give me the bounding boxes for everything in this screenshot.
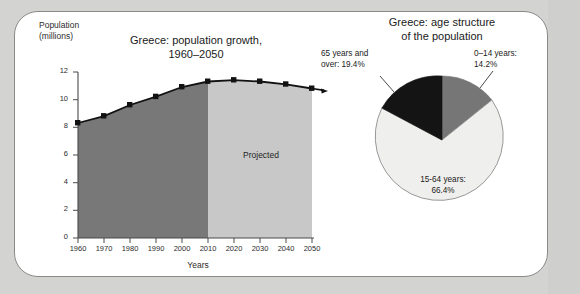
x-tick-label-1980: 1980 — [118, 245, 142, 254]
x-tick-label-2030: 2030 — [248, 245, 272, 254]
age-structure-chart: Greece: age structure of the population … — [330, 18, 555, 248]
x-ticks — [78, 238, 312, 243]
y-tick-label-4: 4 — [50, 178, 68, 187]
pie-chart-title-line2: of the population — [352, 30, 532, 43]
x-tick-label-1990: 1990 — [144, 245, 168, 254]
y-tick-label-10: 10 — [50, 95, 68, 104]
x-tick-label-2020: 2020 — [222, 245, 246, 254]
leader-line-65-plus — [380, 76, 394, 92]
x-tick-label-2000: 2000 — [170, 245, 194, 254]
y-axis-label-line2: (millions) — [39, 31, 73, 41]
pie-label-65-plus-line1: 65 years and — [321, 49, 393, 59]
y-axis-label-line1: Population — [39, 20, 79, 30]
pie-label-15-64-line1: 15-64 years: — [400, 175, 486, 185]
x-tick-label-1970: 1970 — [92, 245, 116, 254]
y-tick-label-6: 6 — [50, 150, 68, 159]
y-tick-label-12: 12 — [50, 67, 68, 76]
population-growth-chart: Population (millions) Greece: population… — [40, 20, 330, 270]
projected-annotation: Projected — [226, 150, 296, 160]
x-tick-label-2050: 2050 — [300, 245, 324, 254]
historical-area — [78, 82, 208, 239]
line-end-arrowhead — [321, 88, 328, 93]
pie-label-0-14-line2: 14.2% — [474, 60, 550, 70]
y-ticks — [73, 72, 78, 238]
line-chart-title-line2: 1960–2050 — [96, 48, 296, 61]
pie-label-0-14-line1: 0–14 years: — [474, 49, 550, 59]
line-chart-title-line1: Greece: population growth, — [96, 34, 296, 47]
y-tick-label-2: 2 — [50, 205, 68, 214]
y-tick-label-0: 0 — [50, 233, 68, 242]
pie-chart-title-line1: Greece: age structure — [352, 16, 532, 29]
y-tick-label-8: 8 — [50, 122, 68, 131]
leader-line-0-14 — [480, 71, 493, 88]
x-tick-label-2040: 2040 — [274, 245, 298, 254]
pie-label-65-plus-line2: over: 19.4% — [321, 60, 393, 70]
screenshot-root: Population (millions) Greece: population… — [0, 0, 580, 294]
x-tick-label-1960: 1960 — [66, 245, 90, 254]
pie-label-15-64-line2: 66.4% — [400, 186, 486, 196]
x-tick-label-2010: 2010 — [196, 245, 220, 254]
x-axis-label: Years — [158, 260, 238, 270]
